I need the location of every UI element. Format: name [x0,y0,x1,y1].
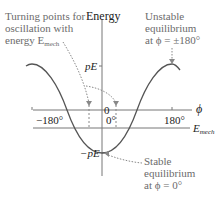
stable-arrow [106,154,142,163]
arrowhead [169,59,175,64]
turning-points-label: Turning points for oscillation with ener… [5,10,85,50]
stable-equilibrium-label: Stable equilibrium at ϕ = 0° [144,155,195,191]
neg-pE-label: −pE [80,147,100,159]
potential-curve [26,64,180,153]
y-axis-label: Energy [86,10,120,22]
turning-arrow-left [63,42,89,103]
pE-label: pE [85,60,97,72]
arrowhead [113,101,119,106]
tick-label-180: 180° [164,114,185,126]
arrowhead [86,101,92,106]
unstable-equilibrium-label: Unstable equilibrium at ϕ = ±180° [145,10,200,46]
emech-label: Emech [193,122,215,138]
turning-arrow-right [86,86,116,103]
tick-label-neg180: −180° [36,114,63,126]
tick-label-0: 0° [106,114,116,126]
x-axis-label: ϕ [196,103,202,115]
